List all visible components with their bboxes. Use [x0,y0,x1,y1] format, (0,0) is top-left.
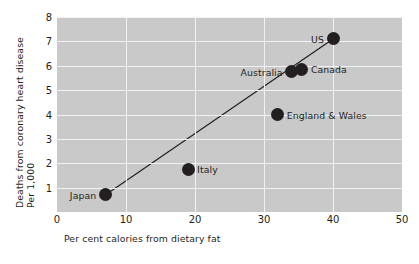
x-axis-tick-label: 0 [54,214,60,225]
y-axis-tick-label: 8 [6,12,52,23]
gridline-horizontal [57,66,402,67]
x-axis-title: Per cent calories from dietary fat [64,233,221,244]
gridline-vertical [264,17,265,212]
data-point [327,32,340,45]
y-axis-tick-label: 4 [6,109,52,120]
x-axis-tick-label: 40 [327,214,340,225]
scatter-chart: Deaths from coronary heart disease Per 1… [0,0,419,264]
data-point-label: England & Wales [287,109,367,120]
y-axis-tick-label: 1 [6,182,52,193]
data-point-label: Canada [311,64,347,75]
data-point-label: Australia [241,66,283,77]
y-axis-ticks: 12345678 [0,17,52,212]
x-axis-tick-label: 30 [258,214,271,225]
data-point-label: Italy [197,164,218,175]
y-axis-tick-label: 3 [6,133,52,144]
gridline-horizontal [57,90,402,91]
x-axis-ticks: 01020304050 [57,214,402,230]
gridline-horizontal [57,139,402,140]
data-point-label: Japan [70,189,96,200]
data-point [182,163,195,176]
gridline-horizontal [57,41,402,42]
x-axis-tick-label: 10 [120,214,133,225]
x-axis-tick-label: 20 [189,214,202,225]
y-axis-tick-label: 6 [6,60,52,71]
x-axis-tick-label: 50 [396,214,409,225]
y-axis-tick-label: 7 [6,36,52,47]
data-point-label: US [311,33,324,44]
gridline-vertical [195,17,196,212]
y-axis-tick-label: 5 [6,85,52,96]
gridline-vertical [126,17,127,212]
y-axis-tick-label: 2 [6,158,52,169]
gridline-horizontal [57,163,402,164]
gridline-horizontal [57,17,402,18]
plot-area: JapanItalyEngland & WalesAustraliaCanada… [57,17,402,212]
